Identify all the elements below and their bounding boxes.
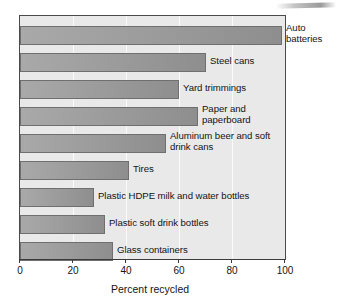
- bar-label-steel-cans: Steel cans: [210, 55, 254, 66]
- x-axis-line: [19, 259, 285, 260]
- bar-label-plastic-soft-drink-bottles: Plastic soft drink bottles: [109, 217, 208, 228]
- bar-label-yard-trimmings: Yard trimmings: [183, 82, 246, 93]
- bar-paper-and-paperboard[interactable]: [20, 107, 198, 126]
- bar-aluminum-cans[interactable]: [20, 134, 166, 153]
- bar-chart-figure: Auto batteries Steel cans Yard trimmings…: [0, 0, 342, 308]
- x-tick-label-80: 80: [217, 265, 247, 276]
- x-axis-title: Percent recycled: [0, 283, 300, 295]
- bar-label-glass-containers: Glass containers: [117, 244, 188, 255]
- tick-mark-80: [231, 259, 232, 263]
- bar-label-aluminum-cans: Aluminum beer and soft drink cans: [170, 130, 270, 152]
- x-tick-label-40: 40: [111, 265, 141, 276]
- bar-label-tires: Tires: [133, 163, 154, 174]
- x-tick-label-60: 60: [164, 265, 194, 276]
- bar-plastic-hdpe-bottles[interactable]: [20, 188, 94, 207]
- x-tick-label-0: 0: [5, 265, 35, 276]
- tick-mark-20: [72, 259, 73, 263]
- bar-yard-trimmings[interactable]: [20, 80, 179, 99]
- scan-artifact: [276, 2, 336, 9]
- bar-plastic-soft-drink-bottles[interactable]: [20, 215, 105, 234]
- x-tick-label-20: 20: [58, 265, 88, 276]
- bar-steel-cans[interactable]: [20, 53, 206, 72]
- tick-mark-100: [284, 259, 285, 263]
- tick-mark-60: [178, 259, 179, 263]
- bar-label-paper-and-paperboard: Paper and paperboard: [202, 103, 251, 125]
- x-tick-label-100: 100: [270, 265, 300, 276]
- tick-mark-0: [19, 259, 20, 263]
- bar-label-auto-batteries: Auto batteries: [286, 22, 322, 44]
- bar-label-plastic-hdpe-bottles: Plastic HDPE milk and water bottles: [98, 190, 249, 201]
- bar-tires[interactable]: [20, 161, 129, 180]
- bar-auto-batteries[interactable]: [20, 26, 282, 45]
- tick-mark-40: [125, 259, 126, 263]
